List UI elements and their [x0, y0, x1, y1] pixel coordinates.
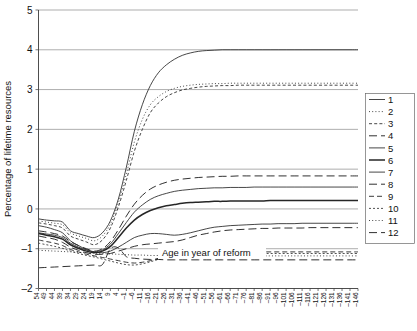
x-tick-label: 44 — [48, 292, 55, 300]
x-tick-label: –46 — [192, 292, 199, 303]
x-tick-label: 14 — [96, 292, 103, 300]
x-tick-labels: 54494439342924191494–1–6–11–16–21–26–31–… — [33, 292, 360, 307]
x-tick-label: –1 — [120, 292, 127, 300]
x-tick-label: –146 — [352, 292, 359, 307]
series-line-1 — [39, 50, 359, 238]
x-tick-label: –66 — [224, 292, 231, 303]
x-tick-label: –121 — [312, 292, 319, 307]
x-tick-label: –106 — [288, 292, 295, 307]
x-tick-label: –31 — [168, 292, 175, 303]
legend-label-6: 6 — [388, 155, 393, 166]
x-tick-label: –101 — [280, 292, 287, 307]
x-tick-label: –76 — [240, 292, 247, 303]
x-tick-label: –126 — [320, 292, 327, 307]
x-tick-label: 54 — [33, 292, 40, 300]
x-tick-label: –16 — [144, 292, 151, 303]
x-tick-label: –116 — [304, 292, 311, 306]
legend-label-9: 9 — [388, 191, 393, 202]
y-axis-label: Percentage of lifetime resources — [2, 81, 13, 217]
series-line-6 — [39, 201, 359, 253]
x-tick-label: –21 — [152, 292, 159, 303]
x-tick-label: –6 — [128, 292, 135, 300]
line-chart: –2–1012345 54494439342924191494–1–6–11–1… — [0, 0, 417, 331]
x-tick-label: –81 — [248, 292, 255, 303]
series-line-2 — [39, 83, 359, 241]
legend-items: 123456789101112 — [369, 94, 399, 238]
x-tick-label: –141 — [344, 292, 351, 307]
chart-figure: –2–1012345 54494439342924191494–1–6–11–1… — [0, 0, 417, 331]
x-tick-label: –26 — [160, 292, 167, 303]
y-tick-label: 1 — [27, 164, 33, 175]
x-tick-marks — [39, 289, 359, 292]
x-tick-label: 49 — [40, 292, 47, 300]
x-tick-label: 24 — [80, 292, 87, 300]
x-tick-label: 29 — [72, 292, 79, 300]
y-tick-label: –1 — [21, 243, 33, 254]
y-tick-label: 2 — [27, 124, 33, 135]
y-tick-label: –2 — [21, 283, 33, 294]
legend-label-10: 10 — [388, 203, 399, 214]
x-tick-label: 39 — [56, 292, 63, 300]
series-layer — [39, 50, 359, 268]
x-tick-label: 9 — [104, 292, 111, 296]
legend: 123456789101112 — [366, 94, 415, 244]
legend-label-8: 8 — [388, 179, 393, 190]
x-tick-label: –86 — [256, 292, 263, 303]
x-tick-label: –56 — [208, 292, 215, 303]
x-tick-label: –91 — [264, 292, 271, 303]
y-tick-label: 3 — [27, 84, 33, 95]
x-tick-label: –36 — [176, 292, 183, 303]
legend-label-7: 7 — [388, 167, 393, 178]
legend-label-1: 1 — [388, 94, 393, 105]
x-tick-label: –61 — [216, 292, 223, 303]
y-tick-label: 0 — [27, 204, 33, 215]
x-tick-label: 34 — [64, 292, 71, 300]
x-tick-label: –131 — [328, 292, 335, 307]
x-axis-annotation: Age in year of reform — [158, 246, 266, 259]
y-tick-label: 4 — [27, 44, 33, 55]
x-tick-label: –11 — [136, 292, 143, 303]
x-tick-label: –71 — [232, 292, 239, 303]
x-tick-label: –96 — [272, 292, 279, 303]
annotation-label: Age in year of reform — [162, 247, 251, 258]
x-tick-label: 19 — [88, 292, 95, 300]
y-tick-labels: –2–1012345 — [21, 5, 33, 295]
x-tick-label: –136 — [336, 292, 343, 307]
legend-label-3: 3 — [388, 118, 393, 129]
legend-label-4: 4 — [388, 130, 393, 141]
x-tick-label: –41 — [184, 292, 191, 303]
x-tick-label: –51 — [200, 292, 207, 303]
series-line-3 — [39, 85, 359, 245]
y-tick-label: 5 — [27, 5, 33, 16]
legend-label-11: 11 — [388, 215, 398, 226]
legend-label-2: 2 — [388, 106, 393, 117]
x-tick-label: 4 — [112, 292, 119, 296]
legend-label-12: 12 — [388, 227, 399, 238]
legend-label-5: 5 — [388, 143, 393, 154]
x-tick-label: –111 — [296, 292, 303, 306]
